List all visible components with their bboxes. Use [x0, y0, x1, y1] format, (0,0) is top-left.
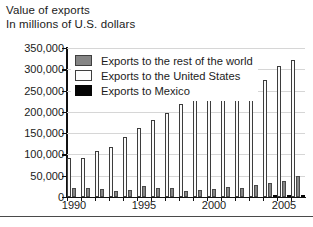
bar-world-2003: [254, 185, 258, 197]
x-axis-tick-mark: [109, 197, 110, 201]
bar-world-1993: [114, 191, 118, 197]
legend-label-mexico: Exports to Mexico: [101, 85, 190, 97]
x-axis-tick-mark: [193, 197, 194, 201]
bar-world-1998: [184, 191, 188, 197]
bar-world-2004: [268, 183, 272, 197]
x-axis-tick-mark: [235, 197, 236, 201]
bar-world-1990: [72, 188, 76, 197]
x-axis-tick-mark: [263, 197, 264, 201]
y-axis-tick-label: 50,000: [30, 170, 64, 182]
bar-usa-1993: [109, 147, 113, 197]
bar-world-1994: [128, 190, 132, 197]
bar-world-2002: [240, 188, 244, 197]
x-axis-tick-mark: [95, 197, 96, 201]
y-axis-tick-label: 200,000: [24, 106, 64, 118]
y-axis-tick-label: 150,000: [24, 127, 64, 139]
legend-swatch-world-icon: [75, 55, 92, 66]
bar-usa-1998: [179, 104, 183, 197]
bar-world-2005: [282, 181, 286, 197]
chart-subtitle: In millions of U.S. dollars: [6, 17, 135, 31]
legend-label-usa: Exports to the United States: [101, 70, 240, 82]
bar-world-2000: [212, 189, 216, 198]
gridline: [67, 48, 305, 49]
legend-label-world: Exports to the rest of the world: [101, 55, 253, 67]
gridline: [67, 133, 305, 134]
bar-usa-2004: [263, 80, 267, 197]
bottom-divider: [0, 216, 313, 217]
page-title: Value of exports: [6, 3, 135, 17]
y-axis-tick-group: 050,000100,000150,000200,000250,000300,0…: [0, 0, 64, 227]
x-axis-tick-mark: [165, 197, 166, 201]
legend-swatch-usa-icon: [75, 70, 92, 81]
legend-item-mexico[interactable]: Exports to Mexico: [75, 83, 253, 98]
legend-item-world[interactable]: Exports to the rest of the world: [75, 53, 253, 68]
chart-legend: Exports to the rest of the world Exports…: [71, 50, 258, 101]
bar-world-1992: [100, 189, 104, 198]
bar-world-2006: [296, 176, 300, 197]
bar-world-1999: [198, 190, 202, 197]
bar-world-1995: [142, 186, 146, 197]
bar-usa-1996: [151, 120, 155, 197]
x-axis-tick-mark: [179, 197, 180, 201]
y-axis-tick-label: 350,000: [24, 42, 64, 54]
bar-usa-2006: [291, 60, 295, 197]
export-value-bar-chart-figure: Value of exports In millions of U.S. dol…: [0, 0, 313, 227]
x-axis-tick-label: 1990: [62, 199, 86, 211]
legend-swatch-mexico-icon: [75, 85, 92, 96]
y-axis-tick-label: 100,000: [24, 148, 64, 160]
y-axis-tick-label: 300,000: [24, 63, 64, 75]
gridline: [67, 154, 305, 155]
x-axis-tick-mark: [249, 197, 250, 201]
bar-world-2001: [226, 187, 230, 197]
bar-usa-2005: [277, 66, 281, 197]
x-axis-tick-mark: [123, 197, 124, 201]
bar-usa-1990: [67, 158, 71, 197]
bar-usa-2001: [221, 89, 225, 197]
bar-usa-2002: [235, 89, 239, 197]
bar-usa-2000: [207, 84, 211, 197]
bar-usa-1992: [95, 151, 99, 197]
x-axis-tick-label: 2005: [272, 199, 296, 211]
bar-mexico-2006: [301, 195, 305, 197]
bar-usa-2003: [249, 86, 253, 197]
legend-item-usa[interactable]: Exports to the United States: [75, 68, 253, 83]
bar-usa-1991: [81, 158, 85, 197]
y-axis-tick-label: 250,000: [24, 85, 64, 97]
gridline: [67, 176, 305, 177]
bar-usa-1997: [165, 113, 169, 197]
gridline: [67, 112, 305, 113]
bar-usa-1994: [123, 137, 127, 197]
bar-world-1997: [170, 188, 174, 197]
x-axis-tick-label: 2000: [202, 199, 226, 211]
chart-title-block: Value of exports In millions of U.S. dol…: [6, 3, 135, 31]
bar-usa-1995: [137, 128, 141, 197]
x-axis-tick-label: 1995: [132, 199, 156, 211]
bar-world-1991: [86, 188, 90, 197]
bar-world-1996: [156, 188, 160, 197]
bar-usa-1999: [193, 93, 197, 197]
